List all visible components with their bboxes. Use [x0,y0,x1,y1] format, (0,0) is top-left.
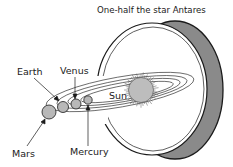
planet-venus [71,99,81,109]
mars-pointer [27,121,44,146]
diagram-title: One-half the star Antares [97,5,206,15]
planet-mercury [84,96,92,104]
planet-mars [42,105,56,119]
earth-label: Earth [17,66,42,77]
mercury-label: Mercury [70,146,109,157]
sun-disk [129,78,154,103]
mars-arrowhead [41,119,45,124]
planet-earth [58,102,69,113]
earth-pointer [34,78,58,100]
sun-label: Sun [109,90,127,101]
mars-label: Mars [12,148,35,159]
antares-diagram: One-half the star Antares Sun Earth Venu… [0,0,233,167]
venus-label: Venus [60,65,89,76]
